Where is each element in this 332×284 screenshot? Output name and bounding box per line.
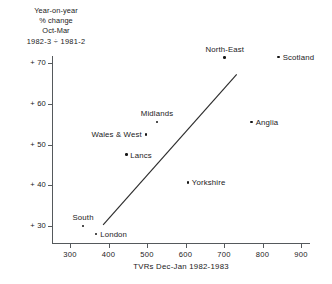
data-point — [82, 225, 85, 228]
y-tick-mark — [48, 145, 52, 146]
scatter-chart: Year-on-year % change Oct-Mar 1982-3 ÷ 1… — [0, 0, 332, 284]
data-point-label: Midlands — [141, 109, 173, 118]
caption-line-1: Year-on-year — [8, 6, 104, 16]
data-point — [250, 121, 253, 124]
data-point-label: London — [100, 230, 127, 239]
x-tick-mark — [263, 244, 264, 248]
x-axis-line — [52, 243, 310, 244]
x-tick-label: 900 — [281, 250, 321, 259]
x-tick-mark — [147, 244, 148, 248]
y-tick-label: + 70 — [16, 58, 46, 67]
caption-line-2: % change — [8, 16, 104, 26]
data-point — [156, 121, 159, 124]
data-point-label: Yorkshire — [192, 178, 226, 187]
data-point-label: Lancs — [130, 150, 152, 159]
x-tick-mark — [70, 244, 71, 248]
x-tick-label: 300 — [50, 250, 90, 259]
x-tick-label: 600 — [166, 250, 206, 259]
data-point — [277, 56, 280, 59]
data-point-label: Anglia — [256, 118, 279, 127]
x-tick-label: 400 — [89, 250, 129, 259]
caption-line-4: 1982-3 ÷ 1981-2 — [8, 37, 104, 47]
x-tick-label: 700 — [204, 250, 244, 259]
y-tick-label: + 30 — [16, 221, 46, 230]
x-tick-mark — [186, 244, 187, 248]
data-point — [95, 233, 98, 236]
data-point — [187, 181, 190, 184]
data-point-label: Wales & West — [92, 130, 142, 139]
y-tick-mark — [48, 226, 52, 227]
x-tick-label: 500 — [127, 250, 167, 259]
y-tick-mark — [48, 104, 52, 105]
y-tick-mark — [48, 63, 52, 64]
y-axis-line — [52, 56, 53, 244]
x-tick-mark — [224, 244, 225, 248]
x-tick-mark — [301, 244, 302, 248]
data-point-label: South — [73, 213, 94, 222]
data-point — [125, 153, 128, 156]
y-tick-mark — [48, 185, 52, 186]
x-axis-title: TVRs Dec-Jan 1982-1983 — [52, 262, 310, 271]
y-tick-label: + 40 — [16, 180, 46, 189]
y-tick-label: + 50 — [16, 140, 46, 149]
data-point — [223, 56, 226, 59]
data-point-label: Scotland — [283, 52, 315, 61]
data-point-label: North-East — [205, 45, 244, 54]
x-tick-label: 800 — [243, 250, 283, 259]
chart-caption: Year-on-year % change Oct-Mar 1982-3 ÷ 1… — [8, 6, 104, 47]
y-tick-label: + 60 — [16, 99, 46, 108]
data-point — [145, 133, 148, 136]
x-tick-mark — [109, 244, 110, 248]
caption-line-3: Oct-Mar — [8, 26, 104, 36]
